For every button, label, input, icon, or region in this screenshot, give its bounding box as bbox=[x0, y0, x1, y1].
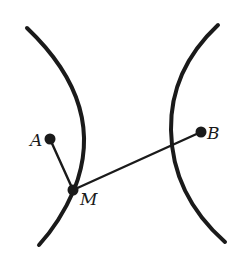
segment-am bbox=[50, 139, 73, 190]
label-b: B bbox=[206, 123, 220, 143]
point-a bbox=[45, 134, 56, 145]
label-a: A bbox=[28, 130, 42, 150]
point-b bbox=[196, 127, 207, 138]
label-m: M bbox=[79, 189, 98, 209]
point-m bbox=[68, 185, 79, 196]
hyperbola-diagram: A M B bbox=[0, 0, 244, 269]
